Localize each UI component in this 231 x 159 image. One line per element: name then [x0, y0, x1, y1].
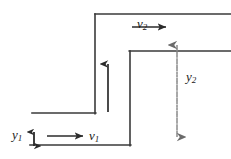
channel-outline: [30, 14, 231, 146]
diagram-canvas: [0, 0, 231, 159]
label-v1: v1: [89, 129, 99, 144]
label-y1: y1: [12, 128, 22, 143]
label-y2: y2: [186, 70, 196, 85]
label-v2: v2: [137, 17, 147, 32]
channel-flow-diagram: y1 v1 v2 y2: [0, 0, 231, 159]
